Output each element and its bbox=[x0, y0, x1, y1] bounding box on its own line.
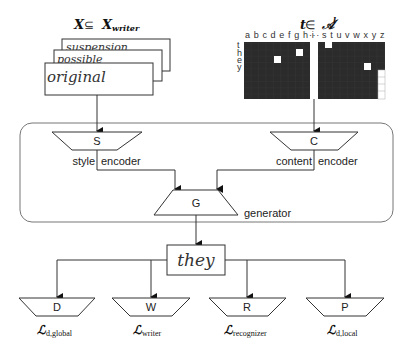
generator: G generator bbox=[154, 190, 291, 219]
local-discriminator: P ℒ d,local bbox=[306, 298, 384, 338]
handwriting-sample-front: original bbox=[45, 63, 153, 95]
architecture-diagram: X ⊆ X writer suspension possible origina… bbox=[0, 0, 404, 350]
content-label: content bbox=[276, 155, 312, 167]
recognizer-symbol: R bbox=[243, 301, 251, 313]
padding-cells bbox=[378, 70, 385, 99]
style-encoder-label: encoder bbox=[101, 155, 141, 167]
writer-classifier: W ℒ writer bbox=[112, 298, 190, 338]
content-encoder-symbol: C bbox=[310, 135, 318, 147]
svg-text:y: y bbox=[237, 62, 242, 72]
generated-word-box: they bbox=[167, 245, 225, 275]
writer-subscript: writer bbox=[112, 23, 140, 33]
loss-writer-sub: writer bbox=[142, 329, 161, 338]
row-labels: t h e y bbox=[237, 40, 243, 72]
generator-label: generator bbox=[244, 207, 291, 219]
alphabet-ellipsis: ··· bbox=[309, 30, 320, 40]
style-input-title: X ⊆ X writer bbox=[73, 17, 140, 33]
handwriting-sample-stack: suspension possible original bbox=[45, 39, 170, 95]
loss-recognizer-sub: recognizer bbox=[233, 329, 267, 338]
style-label: style bbox=[72, 155, 95, 167]
style-encoder-symbol: S bbox=[93, 135, 100, 147]
content-encoder-label: encoder bbox=[318, 155, 358, 167]
discriminator-symbol: D bbox=[53, 301, 61, 313]
length-superscript: l bbox=[333, 15, 336, 25]
writer-symbol: W bbox=[146, 301, 157, 313]
alphabet-row-left: a b c d e f g h i bbox=[245, 30, 314, 40]
one-hot-grid-right bbox=[318, 42, 385, 99]
generated-word: they bbox=[177, 250, 215, 270]
loss-d-global-sub: d,global bbox=[46, 329, 73, 338]
svg-text:original: original bbox=[47, 68, 106, 86]
alphabet-row-right: s t u v w x y z bbox=[322, 30, 385, 40]
one-hot-e bbox=[274, 56, 281, 63]
one-hot-h bbox=[296, 49, 303, 56]
global-discriminator: D ℒ d,global bbox=[19, 298, 95, 338]
generator-symbol: G bbox=[192, 197, 201, 209]
recognizer: R ℒ recognizer bbox=[209, 298, 286, 338]
one-hot-y bbox=[364, 63, 371, 70]
loss-d-local-sub: d,local bbox=[336, 329, 358, 338]
one-hot-t bbox=[325, 42, 332, 48]
patch-discriminator-symbol: P bbox=[341, 301, 348, 313]
subset-symbol: ⊆ bbox=[84, 18, 94, 32]
one-hot-grid-left bbox=[244, 42, 310, 99]
